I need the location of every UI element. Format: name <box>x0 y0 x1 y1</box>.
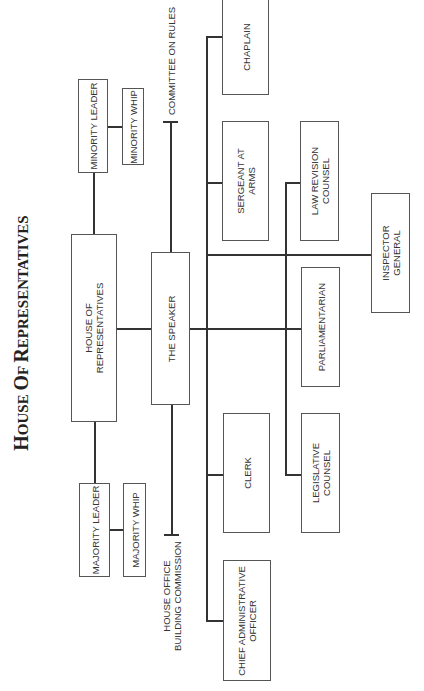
node-label: CHAPLAIN <box>240 23 251 71</box>
connector-speaker-commission <box>171 405 173 535</box>
connector-minority-whip <box>108 126 122 128</box>
connector-majority-whip <box>110 529 123 531</box>
connector-house-minority <box>93 173 95 235</box>
rules-tick <box>163 121 178 123</box>
branch-law-revision <box>285 182 300 184</box>
staff-spine-1 <box>206 36 208 621</box>
node-inspector-general: INSPECTOR GENERAL <box>371 193 410 313</box>
node-label: PARLIAMENTARIAN <box>315 283 326 371</box>
connector-speaker-rules <box>170 121 172 252</box>
node-minority-leader: MINORITY LEADER <box>78 79 108 173</box>
node-legislative-counsel: LEGISLATIVE COUNSEL <box>301 413 340 533</box>
staff-spine-2 <box>285 182 287 475</box>
label-house-office-building-commission: HOUSE OFFICE BUILDING COMMISSION <box>160 540 184 652</box>
branch-sergeant <box>206 182 222 184</box>
node-label: CHIEF ADMINISTRATIVE OFFICER <box>236 566 258 676</box>
label-committee-on-rules: COMMITTEE ON RULES <box>163 8 179 114</box>
connector-house-speaker <box>117 328 151 330</box>
node-label: CLERK <box>241 457 252 489</box>
node-label: MAJORITY WHIP <box>129 492 140 567</box>
node-house-of-representatives: HOUSE OF REPRESENTATIVES <box>71 234 117 422</box>
node-label: LAW REVISION COUNSEL <box>309 147 331 215</box>
node-label: SERGEANT AT ARMS <box>235 148 257 214</box>
branch-legislative <box>285 474 301 476</box>
node-label: MINORITY LEADER <box>88 83 99 170</box>
node-majority-leader: MAJORITY LEADER <box>79 483 110 577</box>
node-sergeant-at-arms: SERGEANT AT ARMS <box>222 121 269 241</box>
node-minority-whip: MINORITY WHIP <box>122 88 144 165</box>
node-law-revision-counsel: LAW REVISION COUNSEL <box>300 121 339 241</box>
chart-title: HOUSE OF REPRESENTATIVES <box>10 213 40 453</box>
node-parliamentarian: PARLIAMENTARIAN <box>301 267 340 387</box>
node-label: INSPECTOR GENERAL <box>380 225 402 280</box>
node-label: LEGISLATIVE COUNSEL <box>310 443 332 503</box>
node-clerk: CLERK <box>223 413 270 533</box>
connector-house-majority <box>94 421 96 484</box>
branch-cao <box>206 620 223 622</box>
node-label: HOUSE OF REPRESENTATIVES <box>83 283 105 373</box>
node-label: THE SPEAKER <box>165 295 176 362</box>
node-majority-whip: MAJORITY WHIP <box>123 483 146 577</box>
branch-chaplain <box>206 36 222 38</box>
node-the-speaker: THE SPEAKER <box>151 252 190 405</box>
node-label: MINORITY WHIP <box>128 90 139 164</box>
node-label: MAJORITY LEADER <box>89 486 100 575</box>
node-chaplain: CHAPLAIN <box>222 0 269 95</box>
commission-tick <box>164 534 179 536</box>
branch-inspector <box>206 254 371 256</box>
node-chief-administrative-officer: CHIEF ADMINISTRATIVE OFFICER <box>223 560 271 681</box>
branch-clerk <box>206 474 223 476</box>
